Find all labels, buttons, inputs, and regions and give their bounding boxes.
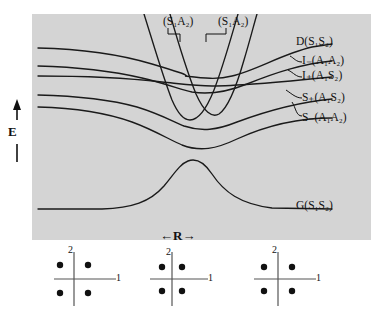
mol-center-axis-h-label: 1 [208,272,213,283]
state-label-D: D(S₁S₂) [296,36,333,48]
mol-left-axis-v-label: 2 [68,244,73,255]
r-axis-symbol: R [173,228,182,243]
molecular-diagram-center: 2 1 [142,248,238,312]
top-label-right: (S₁A₂) [218,16,248,28]
state-label-I-plus: I₊(A₁S₂) [302,70,342,82]
top-label-leaders [160,28,240,54]
state-label-S-minus: S₋(A₁A₂) [302,112,347,124]
state-label-G: G(S₁S₂) [296,200,333,212]
top-label-left: (S₁A₂) [163,16,193,28]
curve-G [38,160,332,209]
molecular-diagram-left: 2 1 [52,248,148,312]
r-arrow-left: ← [160,228,173,243]
mol-left-axis-h-label: 1 [116,272,121,283]
state-label-leaders [286,52,308,124]
molecular-diagram-right: 2 1 [240,248,336,312]
mol-center-axis-v-label: 2 [166,246,171,257]
r-axis-label: ←R→ [160,228,195,244]
mol-right-axis-v-label: 2 [272,244,277,255]
r-arrow-right: → [182,228,195,243]
state-label-S-plus: S₊(A₁S₂) [302,92,345,104]
state-label-I-minus: I₋(A₁A₂) [302,55,344,67]
mol-right-axis-h-label: 1 [316,272,321,283]
potential-energy-figure: E (S₁A₂) (S₁A₂) D(S₁S₂) I₋(A₁A₂) I₊(A₁S₂… [0,0,371,314]
energy-axis-label: E [8,124,17,140]
